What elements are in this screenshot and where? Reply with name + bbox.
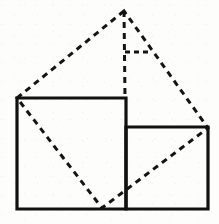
small-square-face — [126, 127, 208, 209]
large-square-face — [17, 98, 126, 209]
geometry-figure-svg — [0, 0, 219, 224]
dashed-altitude-line — [124, 11, 125, 98]
geometry-figure-canvas — [0, 0, 219, 224]
